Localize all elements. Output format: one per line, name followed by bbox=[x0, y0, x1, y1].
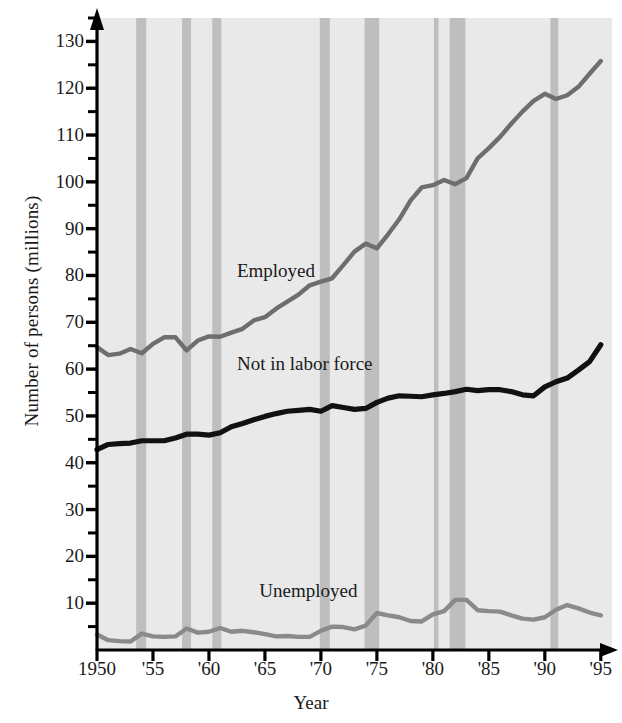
y-axis-tick-label: 20 bbox=[28, 545, 84, 567]
x-axis-tick-label: '65 bbox=[254, 658, 276, 680]
plot-background bbox=[97, 18, 612, 650]
y-axis-tick-label: 130 bbox=[28, 30, 84, 52]
recession-band bbox=[450, 18, 466, 650]
series-label-not-in-labor-force: Not in labor force bbox=[237, 353, 373, 375]
x-axis-tick-label: '95 bbox=[590, 658, 612, 680]
y-axis-tick-label: 110 bbox=[28, 124, 84, 146]
y-axis-tick-label: 60 bbox=[28, 358, 84, 380]
y-axis-tick-label: 70 bbox=[28, 311, 84, 333]
x-axis-tick-label: '60 bbox=[198, 658, 220, 680]
y-axis-tick-label: 50 bbox=[28, 405, 84, 427]
x-axis-tick-label: '75 bbox=[366, 658, 388, 680]
recession-band bbox=[136, 18, 146, 650]
recession-band bbox=[365, 18, 380, 650]
x-axis-label: Year bbox=[0, 692, 622, 714]
recession-band bbox=[434, 18, 438, 650]
x-axis-tick-label: '55 bbox=[142, 658, 164, 680]
chart-figure: Number of persons (millions) Year 102030… bbox=[0, 0, 622, 723]
recession-band bbox=[320, 18, 330, 650]
x-axis-tick-label: 1950 bbox=[78, 658, 116, 680]
y-axis-tick-label: 40 bbox=[28, 452, 84, 474]
y-axis-tick-label: 100 bbox=[28, 171, 84, 193]
y-axis-tick-label: 120 bbox=[28, 77, 84, 99]
y-axis-tick-label: 30 bbox=[28, 499, 84, 521]
x-axis-tick-label: '70 bbox=[310, 658, 332, 680]
x-axis-tick-label: '85 bbox=[478, 658, 500, 680]
y-axis-tick-label: 90 bbox=[28, 218, 84, 240]
recession-band bbox=[182, 18, 191, 650]
y-axis-tick-label: 80 bbox=[28, 264, 84, 286]
recession-band bbox=[550, 18, 558, 650]
series-label-unemployed: Unemployed bbox=[259, 580, 357, 602]
series-label-employed: Employed bbox=[237, 260, 315, 282]
x-axis-tick-label: '90 bbox=[534, 658, 556, 680]
recession-band bbox=[212, 18, 221, 650]
y-axis-tick-label: 10 bbox=[28, 592, 84, 614]
x-axis-tick-label: '80 bbox=[422, 658, 444, 680]
